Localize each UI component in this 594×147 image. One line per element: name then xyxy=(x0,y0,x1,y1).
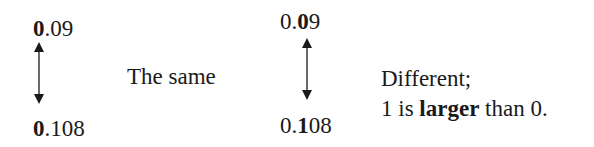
right-top-number: 0.09 xyxy=(280,10,320,33)
left-bottom-number: 0.108 xyxy=(33,117,85,140)
right-top-rest: 9 xyxy=(309,9,321,34)
right-bottom-prefix: 0. xyxy=(280,113,297,138)
line2-before: 1 is xyxy=(381,96,419,121)
right-bottom-bold-digit: 1 xyxy=(297,113,309,138)
right-bottom-number: 0.108 xyxy=(280,114,332,137)
line2-bold-word: larger xyxy=(419,96,479,121)
right-top-prefix: 0. xyxy=(280,9,297,34)
left-bottom-rest: .108 xyxy=(45,116,85,141)
right-top-bold-digit: 0 xyxy=(297,9,309,34)
result-label-line1: Different; xyxy=(381,64,548,94)
right-bottom-rest: 08 xyxy=(309,113,332,138)
left-bottom-bold-digit: 0 xyxy=(33,116,45,141)
result-label-line2: 1 is larger than 0. xyxy=(381,94,548,124)
result-label-same: The same xyxy=(127,62,216,92)
double-arrow-icon xyxy=(32,42,46,104)
line2-after: than 0. xyxy=(479,96,547,121)
result-label-different: Different; 1 is larger than 0. xyxy=(381,64,548,125)
left-top-bold-digit: 0 xyxy=(33,16,45,41)
left-top-rest: .09 xyxy=(45,16,74,41)
double-arrow-icon xyxy=(300,38,314,100)
left-top-number: 0.09 xyxy=(33,17,73,40)
